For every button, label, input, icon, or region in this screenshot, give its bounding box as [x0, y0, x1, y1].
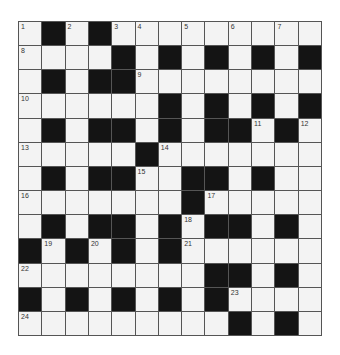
answer-cell[interactable]	[112, 191, 134, 214]
answer-cell[interactable]	[299, 215, 321, 238]
answer-cell[interactable]	[275, 288, 297, 311]
answer-cell[interactable]	[182, 264, 204, 287]
answer-cell[interactable]	[182, 312, 204, 335]
answer-cell[interactable]: 3	[112, 22, 134, 45]
answer-cell[interactable]	[136, 119, 158, 142]
answer-cell[interactable]	[299, 264, 321, 287]
answer-cell[interactable]	[299, 191, 321, 214]
answer-cell[interactable]: 6	[229, 22, 251, 45]
answer-cell[interactable]	[66, 143, 88, 166]
answer-cell[interactable]	[159, 191, 181, 214]
answer-cell[interactable]	[89, 94, 111, 117]
answer-cell[interactable]: 24	[19, 312, 41, 335]
answer-cell[interactable]	[136, 239, 158, 262]
answer-cell[interactable]	[42, 312, 64, 335]
answer-cell[interactable]	[275, 70, 297, 93]
answer-cell[interactable]	[182, 143, 204, 166]
answer-cell[interactable]	[299, 288, 321, 311]
answer-cell[interactable]	[42, 191, 64, 214]
answer-cell[interactable]: 5	[182, 22, 204, 45]
answer-cell[interactable]: 16	[19, 191, 41, 214]
answer-cell[interactable]	[89, 191, 111, 214]
answer-cell[interactable]	[19, 70, 41, 93]
answer-cell[interactable]	[252, 22, 274, 45]
answer-cell[interactable]	[89, 288, 111, 311]
answer-cell[interactable]	[252, 239, 274, 262]
answer-cell[interactable]	[66, 215, 88, 238]
answer-cell[interactable]: 15	[136, 167, 158, 190]
answer-cell[interactable]: 12	[299, 119, 321, 142]
answer-cell[interactable]	[205, 22, 227, 45]
answer-cell[interactable]	[159, 167, 181, 190]
answer-cell[interactable]	[66, 94, 88, 117]
answer-cell[interactable]	[229, 239, 251, 262]
answer-cell[interactable]	[275, 143, 297, 166]
answer-cell[interactable]	[182, 94, 204, 117]
answer-cell[interactable]	[182, 70, 204, 93]
answer-cell[interactable]	[252, 312, 274, 335]
answer-cell[interactable]: 22	[19, 264, 41, 287]
answer-cell[interactable]: 17	[205, 191, 227, 214]
answer-cell[interactable]: 19	[42, 239, 64, 262]
answer-cell[interactable]	[252, 264, 274, 287]
answer-cell[interactable]	[42, 264, 64, 287]
answer-cell[interactable]	[136, 215, 158, 238]
answer-cell[interactable]: 8	[19, 46, 41, 69]
answer-cell[interactable]: 21	[182, 239, 204, 262]
answer-cell[interactable]	[89, 46, 111, 69]
answer-cell[interactable]	[229, 46, 251, 69]
answer-cell[interactable]	[229, 94, 251, 117]
answer-cell[interactable]	[136, 94, 158, 117]
answer-cell[interactable]: 7	[275, 22, 297, 45]
answer-cell[interactable]	[299, 22, 321, 45]
answer-cell[interactable]	[275, 239, 297, 262]
answer-cell[interactable]	[136, 191, 158, 214]
answer-cell[interactable]	[229, 70, 251, 93]
answer-cell[interactable]	[252, 70, 274, 93]
answer-cell[interactable]	[299, 239, 321, 262]
answer-cell[interactable]	[89, 143, 111, 166]
answer-cell[interactable]	[252, 143, 274, 166]
answer-cell[interactable]	[275, 46, 297, 69]
answer-cell[interactable]	[299, 167, 321, 190]
answer-cell[interactable]	[66, 312, 88, 335]
answer-cell[interactable]	[112, 143, 134, 166]
answer-cell[interactable]	[136, 312, 158, 335]
answer-cell[interactable]: 23	[229, 288, 251, 311]
answer-cell[interactable]: 13	[19, 143, 41, 166]
answer-cell[interactable]	[42, 143, 64, 166]
answer-cell[interactable]	[299, 143, 321, 166]
answer-cell[interactable]: 2	[66, 22, 88, 45]
answer-cell[interactable]	[275, 94, 297, 117]
answer-cell[interactable]	[136, 288, 158, 311]
answer-cell[interactable]	[42, 288, 64, 311]
answer-cell[interactable]	[299, 312, 321, 335]
answer-cell[interactable]	[182, 46, 204, 69]
answer-cell[interactable]	[229, 143, 251, 166]
answer-cell[interactable]	[66, 119, 88, 142]
answer-cell[interactable]: 18	[182, 215, 204, 238]
answer-cell[interactable]	[89, 312, 111, 335]
answer-cell[interactable]	[19, 167, 41, 190]
answer-cell[interactable]	[159, 312, 181, 335]
answer-cell[interactable]	[182, 119, 204, 142]
answer-cell[interactable]: 10	[19, 94, 41, 117]
answer-cell[interactable]	[42, 46, 64, 69]
answer-cell[interactable]	[252, 215, 274, 238]
answer-cell[interactable]: 14	[159, 143, 181, 166]
answer-cell[interactable]: 4	[136, 22, 158, 45]
answer-cell[interactable]	[66, 46, 88, 69]
answer-cell[interactable]	[159, 22, 181, 45]
answer-cell[interactable]: 1	[19, 22, 41, 45]
answer-cell[interactable]	[252, 191, 274, 214]
answer-cell[interactable]	[112, 94, 134, 117]
answer-cell[interactable]	[182, 288, 204, 311]
answer-cell[interactable]	[136, 46, 158, 69]
answer-cell[interactable]	[112, 264, 134, 287]
answer-cell[interactable]	[66, 70, 88, 93]
answer-cell[interactable]	[205, 239, 227, 262]
answer-cell[interactable]	[19, 119, 41, 142]
answer-cell[interactable]: 11	[252, 119, 274, 142]
answer-cell[interactable]	[159, 70, 181, 93]
answer-cell[interactable]	[229, 167, 251, 190]
